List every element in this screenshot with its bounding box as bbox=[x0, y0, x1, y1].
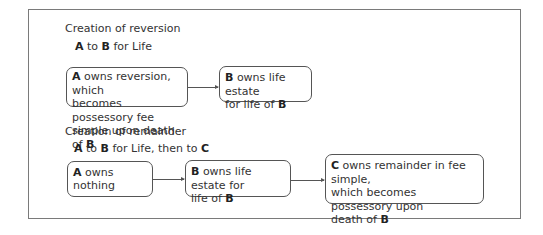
box-text: owns life estate for bbox=[191, 165, 252, 192]
party-b: B bbox=[225, 192, 233, 205]
remainder-box-c: C owns remainder in fee simple, which be… bbox=[325, 154, 484, 204]
box-text: owns remainder in fee simple, bbox=[331, 159, 466, 186]
box-text: becomes possessory fee bbox=[72, 97, 182, 124]
arrow-right-icon bbox=[188, 87, 218, 88]
party-a: A bbox=[72, 70, 81, 83]
box-text: for life of bbox=[225, 98, 278, 111]
box-text: which becomes possessory upon bbox=[331, 186, 478, 213]
party-a: A bbox=[73, 166, 82, 179]
grant-text: for Life bbox=[110, 40, 152, 53]
grant-text: for Life, then to bbox=[109, 142, 201, 155]
party-a: A bbox=[75, 40, 84, 53]
grant-text: to bbox=[84, 40, 102, 53]
box-text: owns reversion, which bbox=[72, 70, 171, 97]
remainder-box-b: B owns life estate for life of B bbox=[185, 160, 291, 197]
grant-text: to bbox=[83, 142, 101, 155]
party-a: A bbox=[74, 142, 83, 155]
party-b: B bbox=[380, 213, 388, 226]
party-b: B bbox=[278, 98, 286, 111]
arrow-right-icon bbox=[153, 179, 184, 180]
party-c: C bbox=[201, 142, 209, 155]
box-text: owns life estate bbox=[225, 71, 286, 98]
reversion-box-b: B owns life estate for life of B bbox=[219, 66, 312, 102]
box-text: life of bbox=[191, 192, 225, 205]
box-text: death of bbox=[331, 213, 380, 226]
party-b: B bbox=[101, 142, 109, 155]
remainder-box-a: A owns nothing bbox=[67, 161, 153, 197]
reversion-box-a: A owns reversion, which becomes possesso… bbox=[66, 67, 188, 107]
arrow-right-icon bbox=[291, 180, 324, 181]
reversion-heading: Creation of reversion bbox=[65, 22, 180, 36]
party-b: B bbox=[102, 40, 110, 53]
party-c: C bbox=[331, 159, 339, 172]
remainder-grant: A to B for Life, then to C bbox=[74, 142, 209, 156]
remainder-heading: Creation of remainder bbox=[65, 125, 186, 139]
reversion-grant: A to B for Life bbox=[75, 40, 152, 54]
